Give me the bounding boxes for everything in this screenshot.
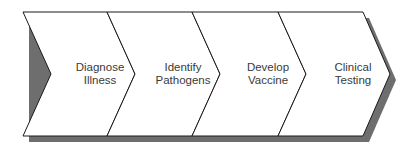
step-3-line2: Vaccine: [228, 74, 308, 87]
step-1-label: Diagnose Illness: [60, 61, 140, 87]
step-2-line2: Pathogens: [143, 74, 223, 87]
step-4-line1: Clinical: [313, 61, 393, 74]
step-2-label: Identify Pathogens: [143, 61, 223, 87]
step-3-line1: Develop: [228, 61, 308, 74]
step-1-line1: Diagnose: [60, 61, 140, 74]
step-3-label: Develop Vaccine: [228, 61, 308, 87]
step-2-line1: Identify: [143, 61, 223, 74]
step-4-label: Clinical Testing: [313, 61, 393, 87]
step-4-line2: Testing: [313, 74, 393, 87]
step-1-line2: Illness: [60, 74, 140, 87]
